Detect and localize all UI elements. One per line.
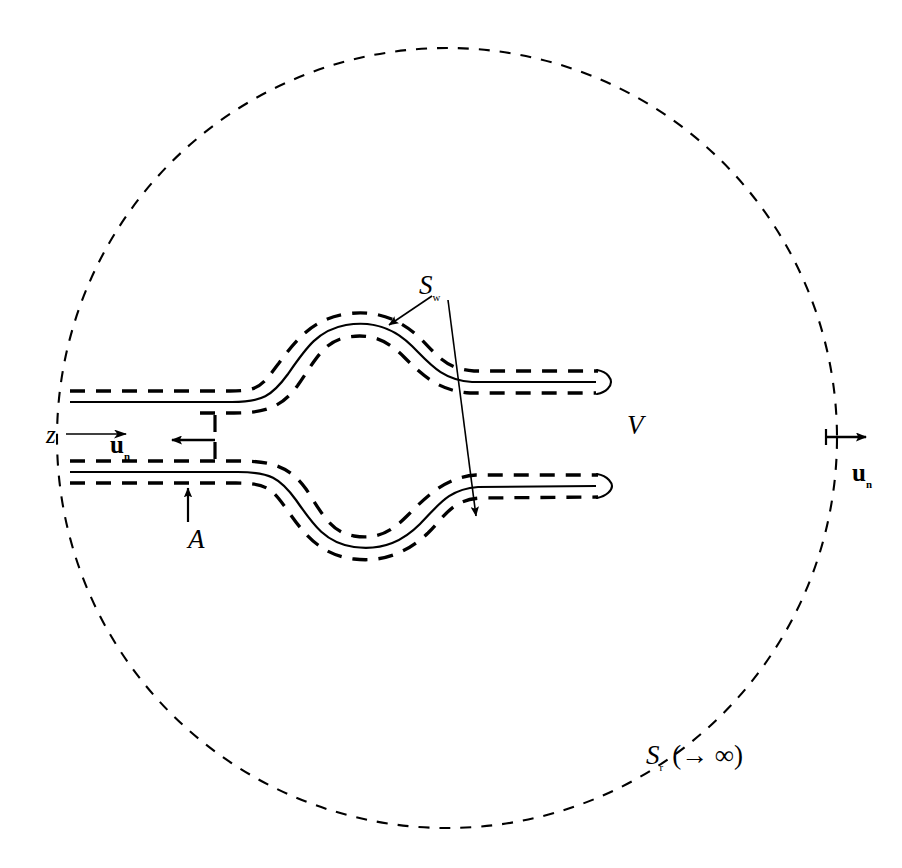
upper-wing-upper-dash: [70, 313, 598, 391]
sw-leader-lower: [448, 300, 476, 516]
label-cross-section-area: A: [188, 526, 205, 553]
far-field-boundary-circle: [57, 48, 837, 828]
sw-leader-upper: [389, 296, 432, 325]
upper-wing-group: [70, 313, 611, 413]
wing-control-volume-diagram: [0, 0, 902, 868]
label-outer-normal-symbol: u: [852, 459, 866, 486]
upper-wing-tail-cap: [597, 370, 611, 394]
lower-wing-tail-cap: [597, 474, 612, 498]
label-wake-surface-subscript: w: [433, 291, 441, 303]
wake-label-leaders: [389, 296, 476, 516]
label-far-field-surface-subscript: r: [660, 761, 664, 773]
lower-wing-group: [70, 461, 612, 560]
label-wake-surface-symbol: S: [419, 270, 433, 300]
label-inner-normal-symbol: u: [110, 431, 124, 458]
label-outer-normal-subscript: n: [866, 478, 872, 490]
label-far-field-surface: Sr(→ ∞): [646, 742, 743, 770]
figure-container: Sw Sr(→ ∞) V z A un un: [0, 0, 902, 868]
lower-wing-lower-dash: [70, 483, 598, 560]
label-z-axis-symbol: z: [46, 421, 56, 448]
label-far-field-surface-suffix: (→ ∞): [663, 740, 743, 770]
label-far-field-surface-symbol: S: [646, 740, 660, 770]
label-z-axis: z: [46, 422, 56, 447]
label-wake-surface: Sw: [419, 272, 440, 300]
label-inner-normal-subscript: n: [124, 450, 130, 462]
label-cross-section-area-symbol: A: [188, 524, 205, 554]
upper-wing-lower-dash: [200, 336, 596, 413]
label-volume: V: [627, 412, 644, 439]
label-inner-normal: un: [110, 432, 130, 459]
label-outer-normal: un: [852, 460, 872, 487]
label-volume-symbol: V: [627, 410, 644, 440]
outer-normal-arrow-group: [826, 429, 866, 445]
